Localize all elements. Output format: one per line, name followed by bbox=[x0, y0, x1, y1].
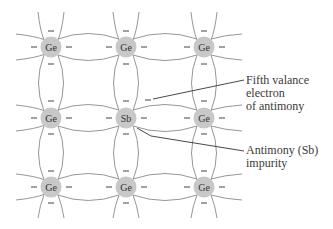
fifth-electron-callout: Fifth valance electron of antimony bbox=[246, 74, 309, 113]
atom-ge: Ge bbox=[194, 108, 215, 129]
leader-lines bbox=[137, 80, 244, 151]
impurity-callout: Antimony (Sb) impurity bbox=[246, 144, 318, 170]
lattice-diagram: Ge Ge Ge Ge Sb Ge Ge Ge bbox=[0, 0, 333, 229]
atom-ge: Ge bbox=[194, 177, 215, 198]
callout-line: impurity bbox=[246, 157, 318, 170]
svg-text:Ge: Ge bbox=[45, 42, 57, 53]
svg-text:Ge: Ge bbox=[45, 182, 57, 193]
callout-line: of antimony bbox=[246, 100, 309, 113]
atom-ge: Ge bbox=[116, 177, 137, 198]
atom-ge: Ge bbox=[41, 37, 62, 58]
svg-text:Ge: Ge bbox=[198, 113, 210, 124]
atom-ge: Ge bbox=[116, 37, 137, 58]
svg-text:Ge: Ge bbox=[45, 113, 57, 124]
svg-text:Sb: Sb bbox=[121, 113, 132, 124]
svg-text:Ge: Ge bbox=[198, 42, 210, 53]
atom-ge: Ge bbox=[194, 37, 215, 58]
atom-sb: Sb bbox=[116, 108, 137, 129]
svg-text:Ge: Ge bbox=[120, 42, 132, 53]
svg-text:Ge: Ge bbox=[120, 182, 132, 193]
atoms: Ge Ge Ge Ge Sb Ge Ge Ge bbox=[41, 37, 215, 198]
atom-ge: Ge bbox=[41, 108, 62, 129]
atom-ge: Ge bbox=[41, 177, 62, 198]
svg-text:Ge: Ge bbox=[198, 182, 210, 193]
